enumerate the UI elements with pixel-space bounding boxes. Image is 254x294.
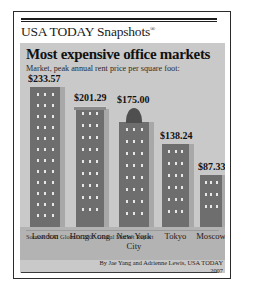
building-window — [141, 152, 143, 155]
bar-value-label: $201.29 — [74, 92, 107, 103]
city-label-tokyo: Tokyo — [154, 231, 197, 241]
building-window — [37, 126, 39, 129]
building-window — [96, 184, 98, 187]
city-label-moscow: Moscow — [192, 231, 225, 241]
building-window — [44, 214, 46, 217]
building-window — [89, 184, 91, 187]
registered-mark-icon: ® — [150, 25, 155, 33]
building-window — [133, 128, 135, 131]
building-roof-cap — [74, 106, 106, 110]
building-front-face — [76, 106, 104, 227]
building-window — [133, 212, 135, 215]
building-window — [141, 128, 143, 131]
bar-new-york-city — [119, 122, 149, 227]
building-window — [141, 212, 143, 215]
building-window — [181, 198, 183, 201]
building-window — [37, 192, 39, 195]
building-window — [37, 93, 39, 96]
building-window — [126, 164, 128, 167]
bar-value-label: $175.00 — [117, 94, 150, 105]
building-window — [126, 152, 128, 155]
building-window — [82, 160, 84, 163]
building-side-face — [189, 144, 194, 227]
building-window — [175, 174, 177, 177]
building-window — [82, 124, 84, 127]
building-window — [44, 126, 46, 129]
building-window — [133, 200, 135, 203]
building-window — [141, 188, 143, 191]
building-window — [89, 148, 91, 151]
bar-value-label: $87.33 — [198, 161, 225, 172]
bar-tokyo — [162, 144, 189, 227]
building-window — [126, 140, 128, 143]
header-rule-thin — [21, 21, 217, 22]
snapshot-card: USA TODAY Snapshots® Most expensive offi… — [13, 11, 231, 279]
building-window — [141, 176, 143, 179]
building-window — [181, 150, 183, 153]
building-window — [175, 162, 177, 165]
building-window — [44, 148, 46, 151]
building-window — [82, 136, 84, 139]
building-window — [181, 162, 183, 165]
building-window — [37, 203, 39, 206]
byline-authors: By Jae Yang and Adrienne Lewis, USA TODA… — [99, 259, 223, 267]
building-front-face — [162, 144, 189, 227]
building-window — [52, 148, 54, 151]
bar-value-label: $138.24 — [160, 130, 193, 141]
building-window — [133, 188, 135, 191]
chart-title: Most expensive office markets — [26, 46, 222, 63]
building-window — [37, 170, 39, 173]
building-window — [175, 198, 177, 201]
building-window — [126, 176, 128, 179]
footer-rule — [21, 272, 217, 273]
building-window — [37, 148, 39, 151]
building-window — [52, 137, 54, 140]
building-window — [37, 115, 39, 118]
header-rule-thick — [21, 18, 217, 20]
building-window — [181, 186, 183, 189]
building-window — [168, 186, 170, 189]
building-window — [133, 152, 135, 155]
building-window — [37, 104, 39, 107]
building-window — [133, 140, 135, 143]
building-window — [216, 193, 218, 196]
building-window — [96, 172, 98, 175]
building-window — [44, 137, 46, 140]
building-front-face — [30, 87, 60, 227]
building-side-face — [104, 109, 109, 227]
building-window — [205, 205, 207, 208]
building-window — [52, 203, 54, 206]
building-window — [44, 93, 46, 96]
building-window — [37, 137, 39, 140]
building-window — [175, 150, 177, 153]
building-window — [133, 176, 135, 179]
building-window — [82, 208, 84, 211]
building-window — [52, 93, 54, 96]
bar-hong-kong — [76, 106, 104, 227]
building-window — [52, 214, 54, 217]
building-window — [96, 124, 98, 127]
building-window — [205, 181, 207, 184]
building-window — [44, 170, 46, 173]
building-window — [168, 210, 170, 213]
building-window — [89, 172, 91, 175]
building-window — [133, 164, 135, 167]
building-window — [44, 115, 46, 118]
chart-subtitle: Market, peak annual rent price per squar… — [26, 64, 222, 73]
building-window — [52, 170, 54, 173]
bar-london — [30, 87, 60, 227]
building-window — [89, 136, 91, 139]
building-window — [205, 193, 207, 196]
building-window — [126, 188, 128, 191]
building-window — [126, 212, 128, 215]
building-window — [216, 205, 218, 208]
building-window — [210, 193, 212, 196]
building-window — [96, 196, 98, 199]
building-window — [52, 104, 54, 107]
building-window — [89, 208, 91, 211]
building-window — [141, 164, 143, 167]
building-window — [89, 196, 91, 199]
building-side-face — [222, 175, 225, 227]
building-window — [44, 181, 46, 184]
city-label-hong-kong: Hong Kong — [68, 231, 112, 241]
